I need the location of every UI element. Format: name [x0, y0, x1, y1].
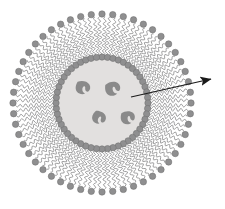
lipid-head-group: [88, 188, 94, 194]
lipid-head-group: [99, 11, 105, 17]
lipid-tail: [102, 17, 106, 55]
lipid-tail: [150, 103, 188, 107]
lipid-head-group: [130, 183, 136, 189]
lipid-head-group: [140, 21, 146, 27]
lipid-tail: [16, 95, 54, 100]
lipid-tail: [147, 118, 183, 130]
lipid-head-group: [12, 121, 18, 127]
lipid-tail: [105, 17, 110, 55]
lipid-head-group: [130, 17, 136, 23]
lipid-head-group: [67, 183, 73, 189]
lipid-head-group: [88, 11, 94, 17]
lipid-head-group: [78, 13, 84, 19]
lipid-head-group: [40, 166, 46, 172]
liposome-diagram-svg: [0, 0, 225, 209]
lipid-head-group: [182, 131, 188, 137]
lipid-tail: [36, 48, 65, 72]
lipid-head-group: [165, 159, 171, 165]
lipid-head-group: [78, 186, 84, 192]
lipid-head-group: [187, 111, 193, 117]
lipid-tail: [133, 37, 157, 66]
lipid-head-group: [20, 141, 26, 147]
lipid-head-group: [16, 131, 22, 137]
lipid-head-group: [120, 186, 126, 192]
lipid-tail: [47, 140, 71, 169]
lipid-tail: [150, 106, 188, 111]
lipid-head-group: [67, 17, 73, 23]
lipid-head-group: [110, 11, 116, 17]
lipid-tail: [98, 151, 102, 189]
lipid-head-group: [57, 21, 63, 27]
lipid-head-group: [26, 49, 32, 55]
lipid-head-group: [10, 111, 16, 117]
lipid-head-group: [158, 166, 164, 172]
lipid-head-group: [12, 79, 18, 85]
lipid-head-group: [188, 100, 194, 106]
lipid-head-group: [158, 33, 164, 39]
lipid-tail: [16, 99, 54, 103]
lipid-head-group: [110, 188, 116, 194]
lipid-head-group: [10, 100, 16, 106]
lipid-tail: [74, 148, 86, 184]
lipid-head-group: [185, 121, 191, 127]
lipid-head-group: [93, 54, 99, 60]
liposome-figure: [0, 0, 225, 209]
lipid-head-group: [40, 33, 46, 39]
lipid-head-group: [149, 173, 155, 179]
lipid-head-group: [57, 179, 63, 185]
lipid-head-group: [140, 179, 146, 185]
lipid-head-group: [32, 159, 38, 165]
lipid-tail: [21, 75, 57, 87]
lipid-tail: [94, 151, 99, 189]
lipid-head-group: [165, 41, 171, 47]
lipid-head-group: [187, 89, 193, 95]
lipid-head-group: [149, 27, 155, 33]
lipid-head-group: [120, 13, 126, 19]
lipid-head-group: [172, 49, 178, 55]
lipid-head-group: [182, 68, 188, 74]
lipid-head-group: [178, 58, 184, 64]
lipid-head-group: [16, 68, 22, 74]
lipid-head-group: [20, 58, 26, 64]
lipid-head-group: [10, 89, 16, 95]
lipid-tail: [139, 134, 168, 158]
lipid-head-group: [26, 150, 32, 156]
lipid-head-group: [178, 141, 184, 147]
lipid-head-group: [99, 189, 105, 195]
lipid-head-group: [48, 27, 54, 33]
lipid-head-group: [48, 173, 54, 179]
lipid-head-group: [32, 41, 38, 47]
lipid-head-group: [172, 150, 178, 156]
lipid-tail: [117, 22, 129, 58]
